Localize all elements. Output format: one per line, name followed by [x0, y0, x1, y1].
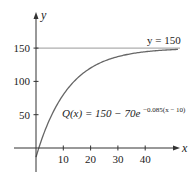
series-line: [36, 49, 178, 157]
function-annotation-exponent: −0.085(x − 10): [143, 106, 186, 114]
y-tick-label: 100: [14, 75, 31, 87]
x-tick-label: 20: [85, 153, 97, 165]
x-tick-label: 30: [112, 153, 124, 165]
x-tick-label: 40: [140, 153, 152, 165]
x-tick-label: 10: [58, 153, 70, 165]
y-tick-label: 150: [14, 42, 31, 54]
function-annotation: Q(x) = 150 − 70e −0.085(x − 10): [62, 106, 186, 120]
reference-line-label: y = 150: [147, 34, 181, 46]
chart: 1020304050100150 y x y = 150 Q(x) = 150 …: [0, 0, 196, 179]
y-tick-label: 50: [19, 109, 31, 121]
x-axis-arrow: [173, 146, 180, 151]
y-axis-label: y: [40, 8, 47, 22]
x-axis-label: x: [181, 141, 188, 155]
function-annotation-main: Q(x) = 150 − 70e: [62, 107, 140, 120]
y-axis-arrow: [34, 12, 39, 19]
